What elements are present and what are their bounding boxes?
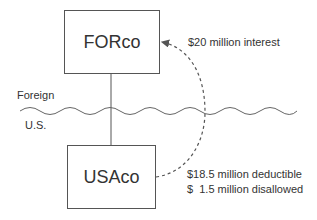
foreign-region-label: Foreign	[17, 89, 54, 101]
forco-entity-box: FORco	[64, 10, 160, 74]
interest-flow-label: $20 million interest	[188, 36, 280, 48]
us-region-label: U.S.	[25, 119, 46, 131]
deductible-amount-label: $18.5 million deductible	[187, 168, 302, 180]
usaco-entity-box: USAco	[67, 145, 156, 209]
border-wave-line	[20, 108, 297, 115]
forco-label: FORco	[83, 32, 140, 53]
usaco-label: USAco	[83, 167, 139, 188]
disallowed-amount-label: $ 1.5 million disallowed	[187, 183, 303, 195]
